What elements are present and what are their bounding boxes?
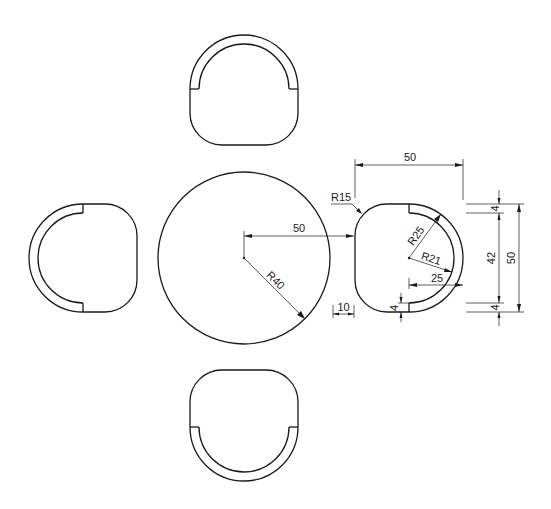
dim-overall-height: 50 bbox=[505, 204, 521, 312]
chair-top-seat bbox=[190, 89, 298, 145]
chair-left-seat bbox=[83, 204, 137, 312]
dim-overall-height-text: 50 bbox=[505, 252, 517, 264]
chair-top bbox=[190, 35, 298, 145]
dim-chair-width: 50 bbox=[355, 151, 463, 200]
dim-top-thickness-text: 4 bbox=[489, 205, 501, 211]
dim-gap: 10 bbox=[333, 301, 354, 318]
dim-back-end-thickness: 4 bbox=[388, 293, 409, 322]
chair-top-back-outer bbox=[190, 35, 298, 89]
chair-top-back-inner bbox=[199, 44, 289, 89]
drawing-canvas: 50 R40 10 50 R15 bbox=[0, 0, 551, 509]
dim-back-inner-radius: R21 bbox=[409, 249, 452, 272]
dim-bottom-thickness-text: 4 bbox=[489, 304, 501, 310]
dim-back-inner-radius-text: R21 bbox=[420, 249, 443, 267]
chair-bottom-seat bbox=[190, 370, 298, 427]
dim-back-opening-text: 42 bbox=[485, 252, 497, 264]
dim-table-radius: R40 bbox=[244, 258, 305, 319]
dim-back-outer-radius-text: R25 bbox=[405, 224, 427, 247]
dim-chair-width-text: 50 bbox=[404, 151, 416, 163]
chair-bottom bbox=[190, 370, 298, 481]
chair-bottom-back-outer bbox=[190, 427, 298, 481]
chair-left-back-inner bbox=[38, 213, 83, 303]
dim-gap-text: 10 bbox=[337, 301, 349, 313]
dim-arc-center-offset-text: 25 bbox=[431, 272, 443, 284]
dim-table-radius-text: R40 bbox=[264, 269, 287, 292]
dim-back-end-thickness-text: 4 bbox=[388, 305, 400, 311]
dim-back-thickness-stack: 4 42 4 bbox=[485, 190, 501, 326]
chair-left bbox=[29, 204, 137, 312]
dim-table-offset-text: 50 bbox=[293, 222, 305, 234]
dimensions: 50 R40 10 50 R15 bbox=[244, 151, 524, 326]
dim-table-center-offset: 50 bbox=[244, 222, 354, 258]
dim-corner-radius-text: R15 bbox=[331, 191, 351, 203]
chair-bottom-back-inner bbox=[199, 427, 289, 472]
chair-right bbox=[355, 204, 463, 312]
chair-left-back-outer bbox=[29, 204, 83, 312]
dim-corner-radius: R15 bbox=[331, 191, 362, 214]
